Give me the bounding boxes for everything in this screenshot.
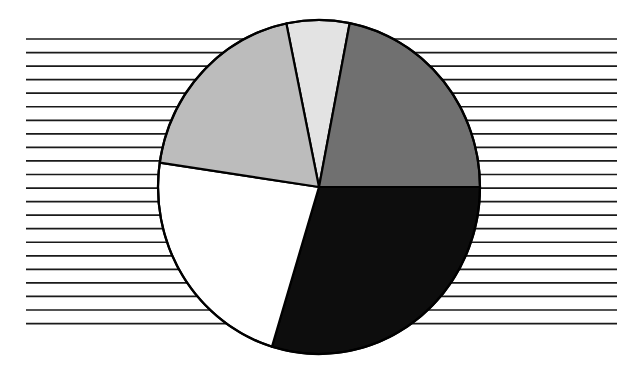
chart-canvas (0, 0, 639, 367)
pie-slices-group (158, 20, 480, 354)
pie-chart-figure (0, 0, 639, 367)
